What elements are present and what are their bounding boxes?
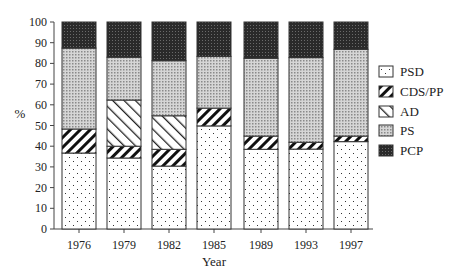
bar-segment-cdspp	[197, 108, 231, 126]
y-tick-label: 0	[41, 222, 47, 236]
bar-1985	[197, 22, 231, 229]
bar-segment-cdspp	[334, 136, 368, 142]
bar-1993	[289, 22, 323, 229]
bar-segment-psd	[244, 149, 278, 229]
y-tick-label: 60	[35, 98, 47, 112]
legend-label: PS	[400, 123, 414, 138]
legend-label: CDS/PP	[400, 84, 443, 99]
bar-segment-psd	[152, 166, 186, 229]
y-tick-label: 40	[35, 139, 47, 153]
bar-segment-ps	[289, 58, 323, 143]
bar-segment-ad	[152, 116, 186, 150]
y-tick-label: 100	[29, 15, 47, 29]
bar-segment-pcp	[334, 22, 368, 49]
bar-segment-psd	[197, 126, 231, 229]
bar-segment-pcp	[197, 22, 231, 56]
y-tick-label: 70	[35, 77, 47, 91]
bar-segment-ad	[107, 100, 141, 146]
bar-segment-ps	[197, 56, 231, 108]
bar-1979	[107, 22, 141, 229]
y-tick-label: 90	[35, 36, 47, 50]
bar-segment-ps	[334, 49, 368, 136]
y-tick-label: 50	[35, 119, 47, 133]
x-tick-label: 1989	[249, 238, 273, 252]
bar-segment-cdspp	[244, 136, 278, 149]
y-tick-label: 20	[35, 181, 47, 195]
legend-swatch	[379, 66, 393, 77]
legend-swatch	[379, 106, 393, 117]
x-tick-label: 1976	[67, 238, 91, 252]
bar-segment-psd	[62, 153, 96, 229]
x-axis-title: Year	[202, 254, 227, 269]
stacked-bar-chart: 0102030405060708090100 19761979198219851…	[0, 0, 455, 280]
bar-segment-psd	[289, 149, 323, 229]
x-tick-label: 1993	[294, 238, 318, 252]
bar-segment-pcp	[244, 22, 278, 58]
legend-label: AD	[400, 104, 419, 119]
legend-item-cdspp: CDS/PP	[379, 84, 443, 99]
y-axis-title: %	[15, 106, 26, 121]
legend-item-ps: PS	[379, 123, 414, 138]
bar-segment-ps	[244, 58, 278, 136]
bar-segment-pcp	[289, 22, 323, 58]
bar-segment-cdspp	[289, 142, 323, 149]
x-tick-label: 1979	[112, 238, 136, 252]
legend: PSDCDS/PPADPSPCP	[379, 64, 443, 158]
legend-label: PSD	[400, 64, 424, 79]
y-axis: 0102030405060708090100	[29, 15, 54, 236]
bar-segment-pcp	[152, 22, 186, 61]
bar-1982	[152, 22, 186, 229]
bar-1989	[244, 22, 278, 229]
bar-segment-ps	[62, 48, 96, 129]
y-tick-label: 30	[35, 160, 47, 174]
bar-1997	[334, 22, 368, 229]
legend-item-pcp: PCP	[379, 143, 423, 158]
bar-1976	[62, 22, 96, 229]
bar-group	[62, 22, 368, 229]
bar-segment-psd	[107, 158, 141, 229]
x-tick-label: 1997	[339, 238, 363, 252]
y-tick-label: 80	[35, 56, 47, 70]
y-tick-label: 10	[35, 201, 47, 215]
x-tick-label: 1982	[157, 238, 181, 252]
legend-item-ad: AD	[379, 104, 419, 119]
legend-item-psd: PSD	[379, 64, 424, 79]
x-tick-label: 1985	[202, 238, 226, 252]
legend-label: PCP	[400, 143, 423, 158]
bar-segment-cdspp	[107, 146, 141, 158]
bar-segment-pcp	[62, 22, 96, 48]
bar-segment-ps	[107, 57, 141, 100]
bar-segment-pcp	[107, 22, 141, 57]
bar-segment-cdspp	[152, 149, 186, 166]
bar-segment-ps	[152, 61, 186, 116]
legend-swatch	[379, 86, 393, 97]
x-axis: 1976197919821985198919931997	[54, 229, 373, 252]
bar-segment-cdspp	[62, 129, 96, 153]
legend-swatch	[379, 125, 393, 136]
legend-swatch	[379, 145, 393, 156]
bar-segment-psd	[334, 142, 368, 229]
